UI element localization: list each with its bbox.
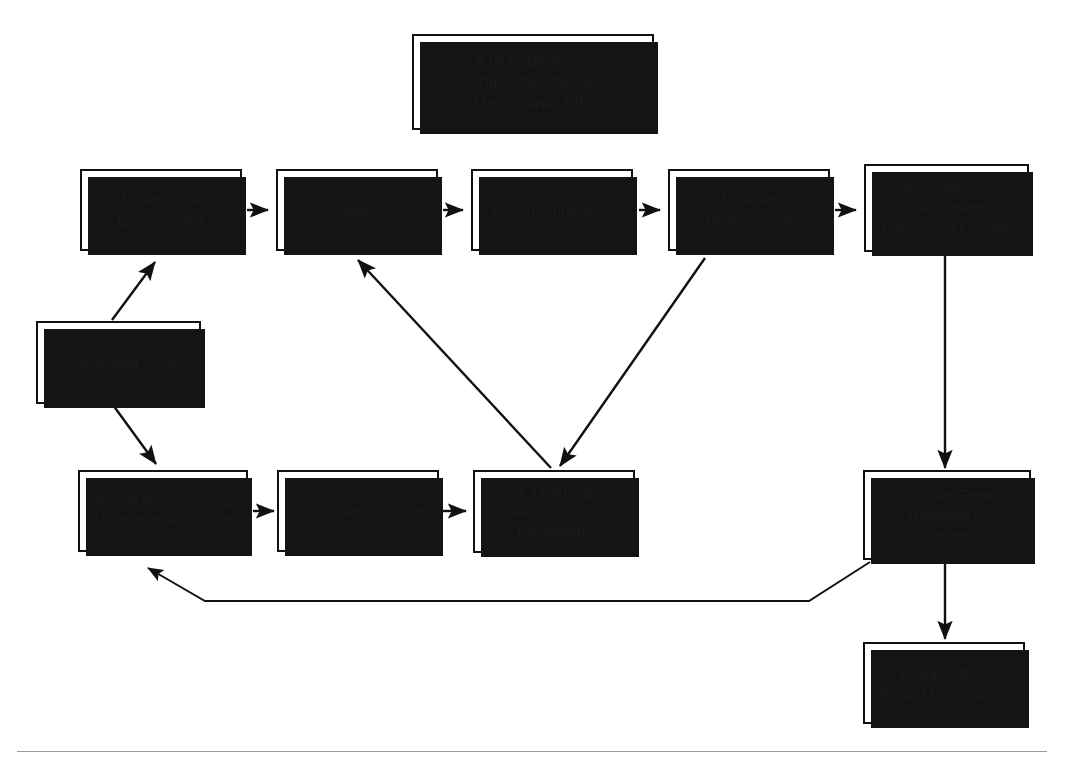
- node-5-label: 5. Course Structure: [285, 501, 431, 521]
- node-title-box: IQA Experience Composite Interview Unclu…: [412, 34, 654, 130]
- edge-instructor-style-to-iqa-process: [113, 405, 156, 464]
- node-3-label: 3. Collaboration: [297, 200, 418, 220]
- node-4-label: 4. Communication: [484, 200, 621, 220]
- node-2-label: 2. Cognitive Reaction (Dialectic) / Comp…: [867, 485, 1026, 544]
- node-6-label: 6. Emotional Environment / Classroom Cli…: [875, 178, 1018, 237]
- node-11-label: 11. Physical Environment: [111, 190, 210, 230]
- edge-peer-relationship-to-learning-resources: [560, 258, 705, 466]
- node-9-label: 9. Learning Resources / Technology: [507, 482, 602, 541]
- node-7-instructor-style[interactable]: 7. Instructor Style: [36, 321, 201, 404]
- node-10-label: 10. Peer Relationship: [700, 190, 797, 230]
- edge-instructor-style-to-physical-environment: [112, 262, 155, 320]
- node-9-learning-resources[interactable]: 9. Learning Resources / Technology: [473, 470, 635, 553]
- node-5-course-structure[interactable]: 5. Course Structure: [277, 470, 439, 552]
- node-1-label: 1. Application Toward Dissertation: [870, 663, 1018, 703]
- node-8-iqa-process[interactable]: 8. IQA Process as a Method of Research: [78, 470, 248, 552]
- diagram-canvas: IQA Experience Composite Interview Unclu…: [0, 0, 1065, 769]
- node-6-emotional-environment[interactable]: 6. Emotional Environment / Classroom Cli…: [864, 164, 1029, 252]
- node-2-cognitive-reaction[interactable]: 2. Cognitive Reaction (Dialectic) / Comp…: [863, 470, 1031, 560]
- node-8-label: 8. IQA Process as a Method of Research: [87, 491, 239, 531]
- footer-divider: [17, 751, 1047, 752]
- edge-cognitive-reaction-to-iqa-process-feedback: [148, 562, 870, 601]
- node-4-communication[interactable]: 4. Communication: [471, 169, 633, 251]
- node-11-physical-environment[interactable]: 11. Physical Environment: [80, 169, 242, 251]
- node-title-label: IQA Experience Composite Interview Unclu…: [452, 50, 613, 113]
- edge-learning-resources-to-collaboration: [358, 260, 551, 468]
- node-3-collaboration[interactable]: 3. Collaboration: [276, 169, 438, 251]
- node-10-peer-relationship[interactable]: 10. Peer Relationship: [668, 169, 830, 251]
- node-1-application-toward-dissertation[interactable]: 1. Application Toward Dissertation: [863, 642, 1025, 724]
- node-7-label: 7. Instructor Style: [52, 353, 185, 373]
